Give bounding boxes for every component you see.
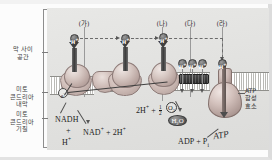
water-molecule-oval: H2O bbox=[168, 115, 187, 126]
label-matrix-line2: 콘드리아 bbox=[2, 118, 42, 126]
oxygen-two-h-charge: + bbox=[146, 104, 149, 110]
adp-text: ADP bbox=[178, 137, 194, 146]
proton-ion-row-1: H+ bbox=[178, 59, 187, 68]
oxygen-reaction-label: 2H+ + 1 2 bbox=[136, 104, 163, 117]
adp-reaction-label: ADP + Pi bbox=[178, 137, 209, 148]
water-formation-arrowhead bbox=[178, 108, 182, 112]
oxygen-subscript: 2 bbox=[173, 108, 175, 113]
proton-ion-intermembrane-3: H+ bbox=[159, 33, 168, 42]
complex-i-head bbox=[64, 64, 90, 88]
tick-matrix bbox=[42, 118, 48, 119]
figure-root: 막 사이 공간 미토 콘드리아 내막 미토 콘드리아 기질 (가) (나) (다… bbox=[0, 0, 272, 160]
label-intermembrane-space: 막 사이 공간 bbox=[4, 45, 42, 60]
proton-pump-arrow-2 bbox=[123, 47, 128, 71]
oxygen-plus-sign: + bbox=[151, 106, 156, 115]
proton-route-dash-top bbox=[169, 38, 223, 39]
label-inner-membrane-line1: 미토 bbox=[2, 85, 42, 93]
oxygen-molecule-circle: O2 bbox=[166, 102, 177, 113]
nad-output-arrowhead bbox=[86, 120, 90, 124]
label-inner-membrane-line3: 내막 bbox=[2, 100, 42, 108]
nadh-label: NADH bbox=[55, 115, 79, 124]
transporter-flow-2 bbox=[192, 69, 193, 91]
scan-edge-top bbox=[0, 0, 272, 4]
proton-route-dash-down bbox=[222, 38, 223, 58]
label-matrix: 미토 콘드리아 기질 bbox=[2, 110, 42, 133]
transporter-flow-arrow-2 bbox=[190, 89, 194, 93]
label-atp-synthase-line1: ATP bbox=[245, 87, 271, 94]
nad-plus-sign: + bbox=[106, 128, 111, 137]
nadh-proton-label: H+ bbox=[62, 136, 71, 147]
adp-plus-sign: + bbox=[196, 137, 201, 146]
label-atp-synthase-line3: 효소 bbox=[245, 102, 271, 109]
proton-gradient-arrow-1 bbox=[116, 36, 120, 40]
label-inner-membrane-line2: 콘드리아 bbox=[2, 93, 42, 101]
label-inner-membrane: 미토 콘드리아 내막 bbox=[2, 85, 42, 108]
phosphate-subscript: i bbox=[207, 142, 209, 148]
proton-ion-row-3: H+ bbox=[198, 59, 207, 68]
tick-inner-membrane bbox=[42, 92, 48, 93]
proton-gradient-arrow-2 bbox=[155, 36, 159, 40]
transporter-flow-arrow-1 bbox=[180, 89, 184, 93]
nadh-text: NADH bbox=[55, 115, 79, 124]
label-atp-synthase: ATP 합성 효소 bbox=[245, 87, 271, 109]
nad-two-h-charge: + bbox=[123, 126, 126, 132]
proton-gradient-dash-1 bbox=[80, 38, 118, 39]
nad-text: NAD bbox=[83, 128, 101, 137]
label-atp-synthase-line2: 합성 bbox=[245, 94, 271, 101]
proton-ion-intermembrane-1: H+ bbox=[70, 34, 79, 43]
nadh-proton-charge: + bbox=[68, 136, 71, 142]
transporter-flow-3 bbox=[202, 69, 203, 91]
proton-ion-row-2: H+ bbox=[188, 59, 197, 68]
transporter-flow-arrow-3 bbox=[200, 89, 204, 93]
nadh-plus-sign: + bbox=[66, 126, 71, 135]
label-intermembrane-line2: 공간 bbox=[4, 53, 42, 61]
transporter-block bbox=[179, 74, 209, 84]
nad-two-h: 2H bbox=[113, 128, 123, 137]
proton-pump-arrow-3 bbox=[161, 47, 166, 71]
tick-atp-synthase bbox=[238, 93, 245, 94]
tick-intermembrane bbox=[42, 52, 48, 53]
nad-charge: + bbox=[101, 126, 104, 132]
label-matrix-line1: 미토 bbox=[2, 110, 42, 118]
atp-synthase-flow-arrow bbox=[220, 112, 228, 118]
atp-synthase-rotor bbox=[222, 66, 226, 114]
transporter-grid bbox=[180, 75, 208, 83]
compartment-bracket bbox=[43, 9, 47, 148]
oxygen-two-h: 2H bbox=[136, 106, 146, 115]
proton-gradient-dash-2 bbox=[131, 38, 157, 39]
water-o: O bbox=[179, 117, 184, 124]
half-denominator: 2 bbox=[159, 111, 163, 117]
label-matrix-line3: 기질 bbox=[2, 125, 42, 133]
half-fraction: 1 2 bbox=[159, 105, 163, 117]
proton-ion-row-4: H+ bbox=[218, 59, 227, 68]
proton-ion-intermembrane-2: H+ bbox=[121, 34, 130, 43]
transporter-flow-1 bbox=[182, 69, 183, 91]
nadh-plus-text: + bbox=[66, 126, 71, 135]
label-intermembrane-line1: 막 사이 bbox=[4, 45, 42, 53]
nad-products-label: NAD+ + 2H+ bbox=[83, 126, 126, 137]
proton-pump-arrow-1 bbox=[72, 48, 77, 72]
